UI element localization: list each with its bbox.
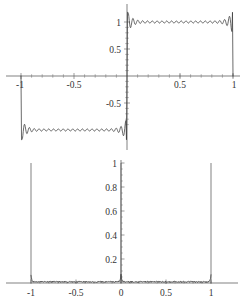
bottom-x-tick-label: 0.5 [160,288,172,298]
bottom-plot-panel: -1-0.500.510.20.40.60.81 [0,152,241,306]
bottom-y-tick-label: 0.8 [105,183,117,193]
top-plot-axes [6,4,240,150]
top-x-tick-label: 1 [232,80,237,90]
bottom-x-tick-label: 0 [119,288,124,298]
bottom-y-tick-label: 0.2 [105,255,117,265]
top-plot-svg: -1-0.50.51-0.50.51 [0,0,241,152]
bottom-y-tick-label: 1 [112,159,117,169]
top-x-tick-label: -1 [16,80,24,90]
bottom-x-tick-label: 1 [209,288,214,298]
bottom-plot-spikes [31,163,211,283]
top-y-tick-label: 0.5 [109,45,121,55]
top-plot-tick-labels: -1-0.50.51-0.50.51 [16,18,237,109]
figure-container: -1-0.50.51-0.50.51 -1-0.500.510.20.40.60… [0,0,241,306]
bottom-x-tick-label: -0.5 [68,288,83,298]
top-plot-panel: -1-0.50.51-0.50.51 [0,0,241,152]
top-y-tick-label: -0.5 [106,99,121,109]
bottom-y-tick-label: 0.4 [105,231,117,241]
bottom-plot-axes [6,160,238,283]
top-x-tick-label: 0.5 [174,80,186,90]
bottom-x-tick-label: -1 [27,288,35,298]
top-y-tick-label: 1 [116,18,121,28]
bottom-y-tick-label: 0.6 [105,207,117,217]
top-x-tick-label: -0.5 [66,80,81,90]
bottom-plot-svg: -1-0.500.510.20.40.60.81 [0,152,241,306]
